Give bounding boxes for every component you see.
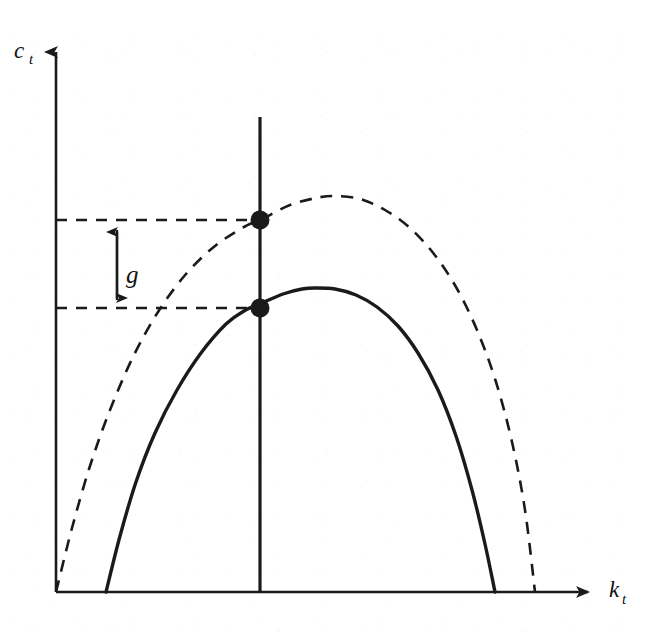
- gap-label-g: g: [126, 261, 139, 288]
- lower-steady-state-point: [251, 299, 270, 318]
- y-axis-label-subscript: t: [29, 51, 34, 67]
- upper-steady-state-point: [251, 211, 270, 230]
- x-axis-label-subscript: t: [622, 591, 627, 607]
- gap-measure-group: g: [117, 230, 139, 300]
- phase-diagram-svg: c t k t g: [0, 0, 651, 640]
- original-consumption-locus-curve: [106, 288, 495, 592]
- figure-container: c t k t g: [0, 0, 651, 640]
- axes-group: [56, 52, 588, 592]
- shifted-consumption-locus-curve: [56, 196, 535, 592]
- axis-labels-group: c t k t: [14, 38, 627, 607]
- y-axis-label: c: [14, 38, 24, 63]
- x-axis-label: k: [609, 577, 620, 602]
